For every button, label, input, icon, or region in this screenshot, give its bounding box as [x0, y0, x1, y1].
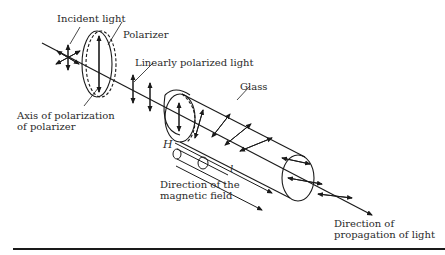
propagation-label-line2: propagation of light — [334, 229, 435, 240]
linearly-polarized-light-label: Linearly polarized light — [135, 57, 254, 68]
axis-of-polarization-label-line2: of polarizer — [17, 121, 75, 132]
polarizer-label: Polarizer — [123, 29, 168, 40]
incident-light-label: Incident light — [57, 13, 125, 24]
incident-light-leader — [70, 27, 80, 44]
magnetic-field-label-line1: Direction of the — [160, 179, 240, 190]
magnetic-field-label-line2: magnetic field — [160, 190, 232, 201]
glass-label: Glass — [240, 81, 267, 92]
bottom-rule — [13, 248, 445, 250]
polarizer-leader — [108, 22, 122, 45]
incident-light-star-icon — [56, 45, 80, 70]
axis-of-polarization-label-line1: Axis of polarization — [17, 110, 115, 121]
l-symbol-label: l — [230, 163, 233, 174]
propagation-label-line1: Direction of — [334, 218, 394, 229]
h-symbol-label: H — [163, 139, 173, 150]
